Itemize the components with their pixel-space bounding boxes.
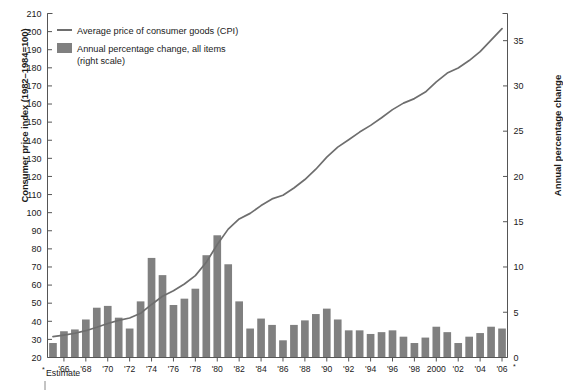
- x-tick-label: '80: [212, 364, 223, 374]
- bar: [345, 330, 353, 357]
- y-tick-label-right: 25: [514, 126, 524, 136]
- y-axis-right-title: Annual percentage change: [552, 36, 563, 236]
- bar: [279, 340, 287, 357]
- bar: [246, 329, 254, 358]
- y-tick-label-right: 0: [514, 353, 519, 363]
- bar: [367, 334, 375, 358]
- line-series-group: [53, 29, 502, 337]
- x-tick-label: '72: [124, 364, 135, 374]
- cpi-line: [53, 29, 502, 337]
- bar: [213, 235, 221, 357]
- x-tick-label: '74: [146, 364, 157, 374]
- y-tick-label-left: 60: [31, 280, 41, 290]
- bar: [454, 343, 462, 357]
- x-tick-label: '92: [343, 364, 354, 374]
- y-tick-label-right: 10: [514, 262, 524, 272]
- bar: [93, 308, 101, 358]
- bar-series-group: [49, 235, 506, 357]
- x-axis-ticks: '66'68'70'72'74'76'78'80'82'84'86'88'90'…: [58, 358, 516, 374]
- y-tick-label-left: 20: [31, 353, 41, 363]
- y-tick-label-right: 30: [514, 81, 524, 91]
- y-tick-label-left: 40: [31, 317, 41, 327]
- x-tick-label: '90: [321, 364, 332, 374]
- bar: [411, 343, 419, 357]
- bar: [104, 306, 112, 358]
- y-axis-left-ticks: 2030405060708090100110120130140150160170…: [26, 9, 52, 363]
- bar: [389, 330, 397, 357]
- bar: [323, 309, 331, 358]
- bar: [356, 330, 364, 357]
- y-tick-label-left: 50: [31, 298, 41, 308]
- bar: [181, 299, 189, 358]
- x-tick-label: '76: [168, 364, 179, 374]
- y-tick-label-right: 15: [514, 217, 524, 227]
- bar: [137, 301, 145, 357]
- x-tick-label: '96: [387, 364, 398, 374]
- x-tick-label: '06: [496, 364, 507, 374]
- x-tick-label: '84: [255, 364, 266, 374]
- bar: [301, 320, 309, 357]
- chart-footnote: *Estimate: [42, 366, 80, 390]
- bar: [82, 319, 90, 357]
- bar: [422, 338, 430, 358]
- x-tick-label: '98: [409, 364, 420, 374]
- estimate-star-x: *: [513, 363, 516, 370]
- y-tick-label-right: 20: [514, 172, 524, 182]
- x-tick-label: '86: [277, 364, 288, 374]
- bar: [334, 319, 342, 357]
- y-tick-label-left: 30: [31, 335, 41, 345]
- bar: [498, 329, 506, 358]
- bar: [170, 305, 178, 358]
- x-tick-label: 2000: [427, 364, 446, 374]
- bar: [202, 255, 210, 357]
- legend-label-cpi: Average price of consumer goods (CPI): [77, 26, 238, 36]
- bar: [49, 343, 57, 357]
- y-axis-right-ticks: 05101520253035: [503, 36, 524, 363]
- x-tick-label: '94: [365, 364, 376, 374]
- bar: [126, 329, 134, 358]
- bar: [235, 301, 243, 357]
- x-tick-label: '82: [234, 364, 245, 374]
- bar: [476, 333, 484, 357]
- bar: [312, 314, 320, 357]
- bar: [192, 289, 200, 358]
- y-tick-label-left: 90: [31, 226, 41, 236]
- y-tick-label-left: 70: [31, 262, 41, 272]
- bar: [443, 332, 451, 357]
- legend-swatch-marker: [57, 43, 72, 53]
- x-tick-label: '78: [190, 364, 201, 374]
- x-tick-label: '68: [80, 364, 91, 374]
- y-tick-label-right: 35: [514, 36, 524, 46]
- chart-legend: Average price of consumer goods (CPI)Ann…: [57, 26, 238, 66]
- x-tick-label: '04: [475, 364, 486, 374]
- bar: [378, 332, 386, 357]
- bar: [159, 275, 167, 357]
- bar: [400, 337, 408, 358]
- bar: [432, 327, 440, 358]
- y-axis-left-title: Consumer price index (1982–1984=100): [19, 0, 30, 236]
- x-tick-label: '88: [299, 364, 310, 374]
- bar: [268, 325, 276, 358]
- footnote-star: *: [42, 366, 45, 373]
- footnote-text: Estimate: [46, 368, 80, 378]
- bar: [487, 327, 495, 358]
- legend-label-right-scale: (right scale): [77, 56, 125, 66]
- y-tick-label-right: 5: [514, 308, 519, 318]
- x-tick-label: '70: [102, 364, 113, 374]
- bar: [257, 319, 265, 358]
- bar: [465, 337, 473, 358]
- legend-label-pct-change: Annual percentage change, all items: [77, 44, 226, 54]
- bar: [115, 318, 123, 358]
- y-tick-label-left: 80: [31, 244, 41, 254]
- x-tick-label: '02: [453, 364, 464, 374]
- bar: [224, 264, 232, 357]
- bar: [290, 325, 298, 358]
